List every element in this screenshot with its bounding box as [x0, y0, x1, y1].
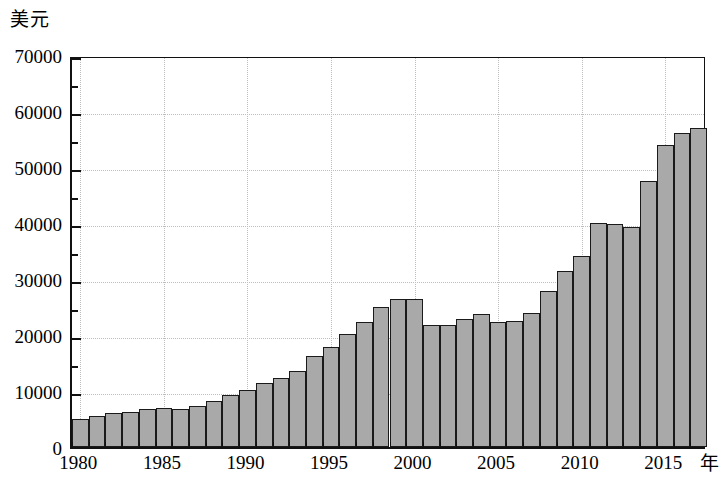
y-axis-tick-major [72, 226, 81, 228]
bar-chart: 美元 010000200003000040000500006000070000 … [0, 0, 727, 480]
x-axis-tick [423, 442, 424, 447]
x-axis-tick [390, 442, 391, 447]
bar [623, 227, 640, 447]
x-axis-tick-labels: 19801985199019952000200520102015 [0, 452, 727, 480]
x-axis-tick [473, 442, 474, 447]
gridline-vertical [164, 58, 165, 447]
x-axis-tick [206, 442, 207, 447]
x-axis-tick [139, 442, 140, 447]
gridline-vertical [247, 58, 248, 447]
gridline-horizontal [72, 114, 704, 115]
gridline-vertical [80, 58, 81, 447]
x-axis-tick [674, 442, 675, 447]
x-axis-tick-label: 2015 [644, 452, 682, 474]
bar [72, 419, 89, 447]
y-axis-tick-minor [72, 254, 78, 256]
bar [573, 256, 590, 447]
x-axis-tick [105, 442, 106, 447]
bar [323, 347, 340, 447]
y-axis-tick-minor [72, 142, 78, 144]
bar [506, 321, 523, 447]
x-axis-unit-label: 年 [700, 452, 719, 474]
y-axis-tick-label: 30000 [0, 271, 62, 290]
y-axis-tick-label: 50000 [0, 159, 62, 178]
x-axis-tick-label: 2010 [561, 452, 599, 474]
x-axis-tick-label: 1990 [226, 452, 264, 474]
x-axis-tick [122, 442, 123, 447]
bar [239, 390, 256, 447]
x-axis-tick [456, 442, 457, 447]
x-axis-tick [373, 442, 374, 447]
y-axis-tick-minor [72, 198, 78, 200]
x-axis-tick [172, 442, 173, 447]
x-axis-tick-label: 1980 [59, 452, 97, 474]
x-axis-tick [557, 442, 558, 447]
y-axis-tick-minor [72, 310, 78, 312]
y-axis-tick-major [72, 282, 81, 284]
y-axis-unit-label: 美元 [10, 8, 50, 30]
x-axis-tick [89, 442, 90, 447]
bar [640, 181, 657, 447]
x-axis-tick [256, 442, 257, 447]
x-axis-tick [323, 442, 324, 447]
bar [139, 409, 156, 447]
bar [89, 416, 106, 447]
plot-area [70, 57, 705, 449]
x-axis-tick [156, 442, 157, 447]
bar [339, 334, 356, 447]
x-axis-tick [690, 442, 691, 447]
x-axis-tick [623, 442, 624, 447]
bar [373, 307, 390, 447]
bar [390, 299, 407, 447]
y-axis-tick-major [72, 338, 81, 340]
x-axis-tick [607, 442, 608, 447]
x-axis-tick-label: 2005 [477, 452, 515, 474]
x-axis-tick [573, 442, 574, 447]
bar [172, 409, 189, 447]
x-axis-tick [239, 442, 240, 447]
bar [490, 322, 507, 447]
x-axis-tick [72, 442, 73, 447]
y-axis-tick-label: 40000 [0, 215, 62, 234]
bar [256, 383, 273, 447]
bar [273, 378, 290, 447]
bar [607, 224, 624, 447]
plot-inner [72, 58, 704, 447]
y-axis-tick-major [72, 58, 81, 60]
x-axis-tick [506, 442, 507, 447]
bar [189, 406, 206, 447]
x-axis-tick [440, 442, 441, 447]
bar [289, 371, 306, 447]
y-axis-tick-major [72, 114, 81, 116]
bar [222, 395, 239, 447]
bar [690, 128, 707, 447]
bar [440, 325, 457, 447]
y-axis-tick-major [72, 394, 81, 396]
x-axis-tick [356, 442, 357, 447]
y-axis-tick-label: 20000 [0, 327, 62, 346]
bar [406, 299, 423, 447]
x-axis-tick [640, 442, 641, 447]
bar [156, 408, 173, 447]
x-axis-tick [289, 442, 290, 447]
y-axis-tick-label: 60000 [0, 103, 62, 122]
y-axis-tick-minor [72, 366, 78, 368]
x-axis-tick [222, 442, 223, 447]
bar [306, 356, 323, 447]
x-axis-tick [590, 442, 591, 447]
x-axis-tick [657, 442, 658, 447]
bar [590, 223, 607, 447]
x-axis-tick-label: 1995 [310, 452, 348, 474]
y-axis-tick-label: 10000 [0, 383, 62, 402]
bar [456, 319, 473, 447]
bar [674, 133, 691, 447]
x-axis-tick [339, 442, 340, 447]
bar [105, 413, 122, 447]
gridline-horizontal [72, 170, 704, 171]
bar [356, 322, 373, 447]
y-axis-tick-label: 70000 [0, 47, 62, 66]
bar [540, 291, 557, 447]
x-axis-tick-label: 1985 [143, 452, 181, 474]
bar [206, 401, 223, 447]
bar [122, 412, 139, 447]
